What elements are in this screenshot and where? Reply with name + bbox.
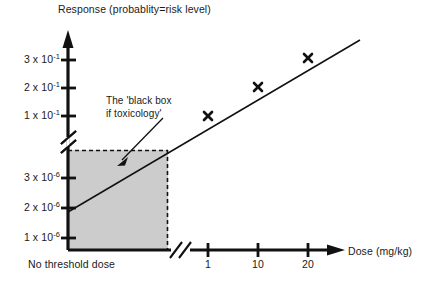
y-tick-label-2e-6-mantissa: 2 x 10 bbox=[24, 201, 53, 213]
y-tick-label-3e-1: 3 x 10-1 bbox=[8, 53, 60, 65]
y-tick-label-2e-6-exponent: -6 bbox=[53, 200, 60, 209]
x-axis-title: Dose (mg/kg) bbox=[348, 245, 412, 257]
data-point-marker-20 bbox=[304, 54, 312, 62]
y-tick-label-2e-1: 2 x 10-1 bbox=[8, 81, 60, 93]
black-box-shaded-region bbox=[68, 150, 168, 250]
y-tick-label-3e-6: 3 x 10-6 bbox=[8, 171, 60, 183]
y-tick-label-2e-6: 2 x 10-6 bbox=[8, 201, 60, 213]
y-tick-label-3e-1-exponent: -1 bbox=[53, 52, 60, 61]
black-box-annotation: The 'black box if toxicology' bbox=[106, 95, 172, 120]
y-tick-label-3e-6-exponent: -6 bbox=[53, 170, 60, 179]
y-tick-label-2e-1-mantissa: 2 x 10 bbox=[24, 81, 53, 93]
x-tick-label-20: 20 bbox=[293, 258, 323, 270]
data-point-marker-1 bbox=[204, 112, 212, 120]
data-point-marker-10 bbox=[254, 83, 262, 91]
dose-response-line bbox=[68, 40, 360, 212]
y-tick-label-1e-6-mantissa: 1 x 10 bbox=[24, 231, 53, 243]
y-tick-label-1e-1: 1 x 10-1 bbox=[8, 109, 60, 121]
y-tick-label-3e-6-mantissa: 3 x 10 bbox=[24, 171, 53, 183]
y-tick-label-1e-6: 1 x 10-6 bbox=[8, 231, 60, 243]
dose-response-figure: Response (probablity=risk level) Dose (m… bbox=[0, 0, 431, 290]
y-axis-arrowhead bbox=[63, 30, 74, 48]
y-tick-label-2e-1-exponent: -1 bbox=[53, 80, 60, 89]
x-axis-arrowhead bbox=[327, 245, 345, 256]
x-tick-label-10: 10 bbox=[243, 258, 273, 270]
y-tick-label-1e-6-exponent: -6 bbox=[53, 230, 60, 239]
black-box-annotation-line-2: if toxicology' bbox=[106, 108, 172, 121]
no-threshold-dose-label: No threshold dose bbox=[28, 258, 115, 270]
y-tick-label-3e-1-mantissa: 3 x 10 bbox=[24, 53, 53, 65]
y-tick-label-1e-1-exponent: -1 bbox=[53, 108, 60, 117]
y-tick-label-1e-1-mantissa: 1 x 10 bbox=[24, 109, 53, 121]
chart-title: Response (probablity=risk level) bbox=[58, 3, 211, 15]
x-tick-label-1: 1 bbox=[193, 258, 223, 270]
black-box-annotation-line-1: The 'black box bbox=[106, 95, 172, 108]
